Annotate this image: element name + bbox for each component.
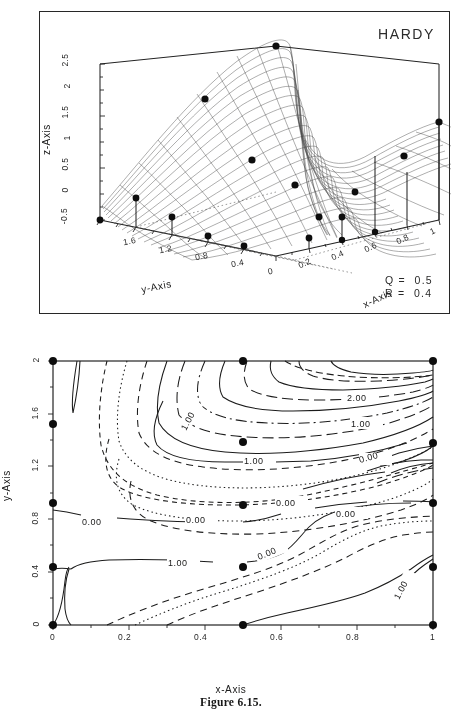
figure-caption: Figure 6.15.: [0, 696, 462, 708]
contour-y-ticks: [48, 361, 53, 625]
contour-label: 1.00: [351, 419, 371, 429]
contour-y-tick-label: 0.4: [30, 564, 40, 577]
contour-y-tick-label: 0.8: [30, 511, 40, 524]
contour-x-tick-label: 0.6: [270, 632, 283, 642]
data-point-markers: [97, 42, 443, 249]
contour-y-tick-label: 2: [31, 357, 41, 362]
contour-x-tick-label: 0.8: [346, 632, 359, 642]
contour-label: 1.00: [168, 558, 188, 568]
z-axis-label: z-Axis: [41, 124, 52, 155]
contour-value-labels: 2.00 1.00 1.00 1.00 0.00 0.00 0.00 0.00 …: [81, 391, 416, 603]
contour-label: 0.00: [336, 509, 356, 519]
contour-x-axis-label: x-Axis: [0, 684, 462, 695]
contour-plot-panel: 2.00 1.00 1.00 1.00 0.00 0.00 0.00 0.00 …: [47, 355, 439, 643]
contour-label: 1.00: [244, 456, 264, 466]
z-tick-label: 0.5: [60, 157, 70, 170]
z-tick-label: 2: [62, 83, 72, 88]
z-tick-label: 1: [62, 135, 72, 140]
contour-lines-upper: [72, 361, 433, 503]
contour-plot-canvas: 2.00 1.00 1.00 1.00 0.00 0.00 0.00 0.00 …: [47, 355, 439, 643]
surface-plot-canvas: [40, 12, 451, 315]
contour-lines-mid: [106, 361, 433, 534]
contour-y-axis-label: y-Axis: [1, 470, 12, 501]
contour-y-tick-label: 1.6: [30, 406, 40, 419]
contour-x-tick-label: 0.4: [194, 632, 207, 642]
contour-lines-lower: [107, 516, 433, 625]
floor-grid: [136, 192, 439, 273]
contour-x-tick-label: 0.2: [118, 632, 131, 642]
contour-y-tick-label: 1.2: [30, 458, 40, 471]
z-tick-label: 1.5: [60, 105, 70, 118]
plot-title: HARDY: [378, 26, 435, 42]
z-tick-label: 0: [60, 187, 70, 192]
contour-label: 0.00: [82, 517, 102, 527]
z-tick-label: 2.5: [60, 53, 70, 66]
wireframe-surface: [102, 40, 451, 260]
surface-plot-panel: HARDY Q = 0.5 R = 0.4: [39, 11, 450, 314]
contour-y-tick-label: 0: [31, 621, 41, 626]
contour-x-tick-label: 1: [430, 632, 435, 642]
contour-x-tick-label: 0: [50, 632, 55, 642]
z-axis-ticks: [100, 64, 105, 220]
contour-label: 2.00: [347, 393, 367, 403]
contour-label: 0.00: [276, 498, 296, 508]
z-tick-label: -0.5: [59, 208, 69, 224]
contour-label: 0.00: [186, 515, 206, 525]
